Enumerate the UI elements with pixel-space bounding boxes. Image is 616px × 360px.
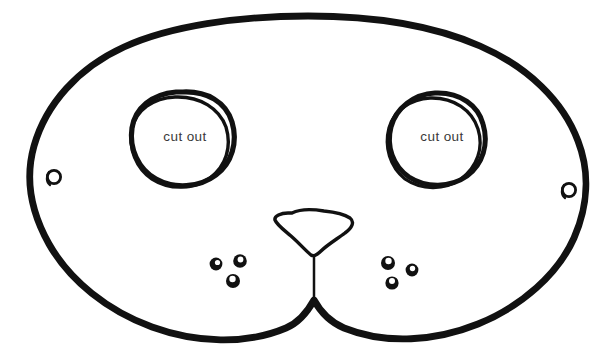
- mask-template-canvas: cut out cut out: [0, 0, 616, 360]
- whisker-dot-highlight: [238, 257, 244, 263]
- mask-outline: [30, 16, 586, 340]
- whisker-dot-highlight: [229, 276, 235, 282]
- whisker-dot-highlight: [389, 278, 395, 284]
- mask-drawing: [0, 0, 616, 360]
- whisker-dot-highlight: [385, 258, 391, 264]
- right-eye-cut-out-label: cut out: [403, 130, 481, 144]
- whisker-dot-highlight: [410, 266, 415, 271]
- left-eye-cut-out-label: cut out: [146, 130, 224, 144]
- whisker-dot-highlight: [215, 260, 220, 265]
